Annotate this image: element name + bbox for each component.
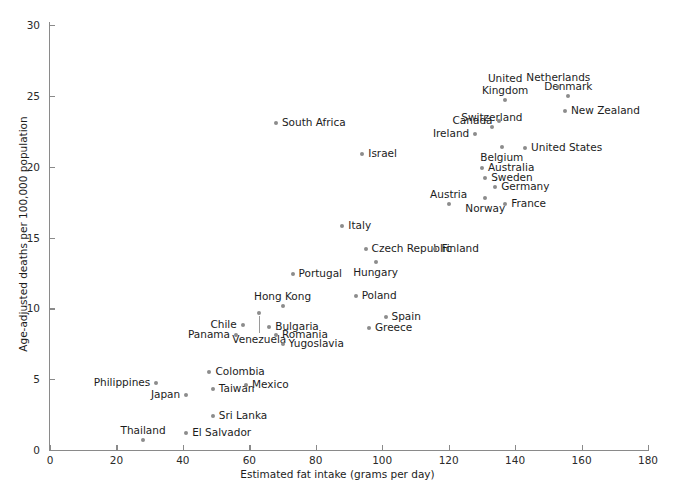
data-point[interactable] — [267, 325, 271, 329]
data-point-label: Greece — [375, 322, 412, 334]
y-tick-mark — [50, 96, 55, 97]
y-tick-label: 30 — [6, 19, 40, 31]
data-point[interactable] — [503, 98, 507, 102]
data-point-label: Mexico — [252, 379, 289, 391]
y-tick-mark — [50, 308, 55, 309]
data-point-label: Czech Republic — [372, 243, 452, 255]
data-point[interactable] — [354, 294, 358, 298]
data-point[interactable] — [207, 370, 211, 374]
label-leader-line — [259, 316, 260, 333]
data-point-label: Finland — [441, 243, 479, 255]
data-point[interactable] — [384, 315, 388, 319]
data-point[interactable] — [566, 94, 570, 98]
data-point-label: Colombia — [215, 366, 264, 378]
data-point-label: Australia — [488, 162, 534, 174]
data-point[interactable] — [483, 196, 487, 200]
data-point[interactable] — [211, 387, 215, 391]
data-point[interactable] — [154, 381, 158, 385]
data-point[interactable] — [503, 202, 507, 206]
data-point[interactable] — [493, 185, 497, 189]
data-point[interactable] — [340, 224, 344, 228]
data-point-label: El Salvador — [192, 427, 251, 439]
data-point[interactable] — [500, 145, 504, 149]
data-point-label: Philippines — [94, 378, 151, 390]
data-point-label: South Africa — [282, 117, 346, 129]
x-tick-mark — [316, 445, 317, 450]
data-point-label: Sri Lanka — [219, 410, 268, 422]
x-tick-label: 80 — [296, 454, 336, 466]
data-point[interactable] — [364, 247, 368, 251]
x-tick-label: 120 — [429, 454, 469, 466]
x-tick-mark — [648, 445, 649, 450]
y-tick-label: 25 — [6, 90, 40, 102]
y-tick-mark — [50, 25, 55, 26]
data-point-label: Ireland — [433, 128, 469, 140]
x-tick-mark — [449, 445, 450, 450]
data-point-label: Thailand — [120, 425, 165, 437]
data-point[interactable] — [241, 323, 245, 327]
data-point-label: France — [511, 198, 546, 210]
data-point[interactable] — [447, 202, 451, 206]
data-point[interactable] — [473, 132, 477, 136]
data-point[interactable] — [523, 146, 527, 150]
data-point[interactable] — [483, 176, 487, 180]
data-point-label: Venezuela — [232, 334, 286, 346]
data-point-label: Hungary — [353, 267, 398, 279]
data-point[interactable] — [497, 119, 501, 123]
x-tick-label: 140 — [495, 454, 535, 466]
data-point-label: Taiwan — [219, 383, 255, 395]
x-tick-label: 60 — [229, 454, 269, 466]
data-point-label: Israel — [368, 148, 397, 160]
data-point-label: Austria — [430, 188, 467, 200]
data-point[interactable] — [274, 121, 278, 125]
x-axis-line — [50, 450, 649, 451]
data-point[interactable] — [291, 272, 295, 276]
y-tick-mark — [50, 379, 55, 380]
data-point-label: Spain — [392, 311, 421, 323]
data-point-label: Sweden — [491, 172, 533, 184]
data-point[interactable] — [281, 342, 285, 346]
data-point[interactable] — [184, 393, 188, 397]
y-tick-mark — [50, 238, 55, 239]
x-tick-label: 20 — [96, 454, 136, 466]
data-point[interactable] — [374, 260, 378, 264]
data-point[interactable] — [244, 383, 248, 387]
y-tick-mark — [50, 450, 55, 451]
data-point[interactable] — [141, 438, 145, 442]
x-tick-mark — [382, 445, 383, 450]
data-point-label: Panama — [188, 330, 230, 342]
data-point-label: United States — [531, 143, 602, 155]
x-tick-mark — [582, 445, 583, 450]
data-point-label: Yugoslavia — [289, 338, 344, 350]
x-tick-label: 180 — [628, 454, 668, 466]
data-point-label: Hong Kong — [254, 290, 311, 302]
data-point-label: Japan — [151, 389, 180, 401]
x-tick-label: 0 — [30, 454, 70, 466]
data-point-label: Norway — [465, 203, 505, 215]
data-point-label: Italy — [348, 220, 371, 232]
data-point[interactable] — [563, 109, 567, 113]
x-tick-mark — [515, 445, 516, 450]
x-tick-label: 100 — [362, 454, 402, 466]
data-point-label: Belgium — [480, 152, 523, 164]
data-point-label: Poland — [362, 290, 397, 302]
y-tick-mark — [50, 167, 55, 168]
data-point[interactable] — [480, 166, 484, 170]
data-point-label: Portugal — [299, 269, 343, 281]
data-point[interactable] — [360, 152, 364, 156]
y-tick-label: 5 — [6, 373, 40, 385]
data-point[interactable] — [184, 431, 188, 435]
data-point-label: Netherlands — [526, 72, 590, 84]
data-point[interactable] — [257, 311, 261, 315]
data-point[interactable] — [211, 414, 215, 418]
data-point-label: Canada — [453, 116, 493, 128]
x-tick-mark — [116, 445, 117, 450]
x-tick-label: 40 — [163, 454, 203, 466]
x-axis-title: Estimated fat intake (grams per day) — [0, 468, 675, 480]
data-point[interactable] — [367, 326, 371, 330]
y-axis-title: Age-adjusted deaths per 100,000 populati… — [17, 104, 29, 364]
x-tick-mark — [50, 445, 51, 450]
y-axis-line — [49, 22, 50, 451]
data-point-label: Chile — [210, 320, 236, 332]
data-point[interactable] — [281, 304, 285, 308]
